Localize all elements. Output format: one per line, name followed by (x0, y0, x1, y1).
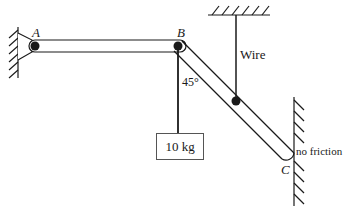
ceiling (208, 6, 270, 15)
diagram-canvas (0, 0, 348, 215)
point-label-c: C (281, 163, 290, 176)
angle-label: 45° (182, 76, 199, 88)
statics-diagram: A B C 45° Wire no friction 10 kg (0, 0, 348, 215)
pivot-a (31, 42, 40, 51)
mass-label: 10 kg (165, 139, 194, 155)
no-friction-label: no friction (296, 146, 342, 157)
point-label-a: A (32, 26, 40, 39)
mass-box: 10 kg (156, 133, 204, 160)
left-wall (9, 27, 18, 78)
wire-label: Wire (240, 48, 265, 61)
pivot-b (174, 42, 183, 51)
wire-attachment-point (232, 97, 241, 106)
horizontal-beam (29, 40, 186, 52)
point-label-b: B (177, 26, 185, 39)
